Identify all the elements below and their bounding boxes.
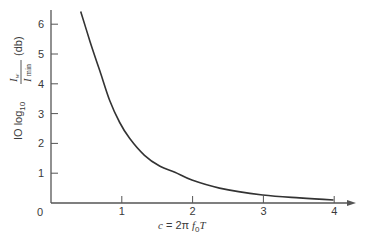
x-axis-arrow-icon: [347, 200, 356, 206]
y-tick-label: 2: [38, 137, 44, 149]
y-tick-label: 3: [38, 108, 44, 120]
y-label-prefix: IO log: [12, 111, 24, 140]
x-label-eq: = 2: [163, 219, 182, 231]
origin-label: 0: [37, 206, 43, 218]
y-label-den: I: [21, 77, 33, 83]
y-label-unit: (db): [12, 36, 24, 56]
y-ticks: 123456: [38, 18, 58, 179]
x-axis-label: c = 2π f0T: [158, 219, 206, 234]
y-label-sub: 10: [18, 101, 27, 110]
chart: 123456 1234 0 c = 2π f0T IO log10 Iw Imi…: [0, 0, 366, 237]
x-tick-label: 4: [331, 205, 337, 217]
svg-text:Iw: Iw: [7, 73, 21, 83]
y-tick-label: 5: [38, 48, 44, 60]
x-label-T: T: [199, 219, 206, 231]
y-tick-label: 4: [38, 78, 44, 90]
y-label-num-sub: w: [13, 73, 21, 78]
y-axis-label: IO log10 Iw Imin (db): [7, 36, 33, 140]
x-ticks: 1234: [119, 196, 338, 217]
x-tick-label: 2: [190, 205, 196, 217]
svg-text:Imin: Imin: [21, 64, 33, 83]
y-tick-label: 6: [38, 18, 44, 30]
data-curve: [81, 11, 334, 200]
x-tick-label: 1: [119, 205, 125, 217]
y-label-den-sub: min: [24, 64, 33, 76]
y-tick-label: 1: [38, 167, 44, 179]
x-tick-label: 3: [260, 205, 266, 217]
svg-text:IO log10: IO log10: [12, 101, 27, 140]
